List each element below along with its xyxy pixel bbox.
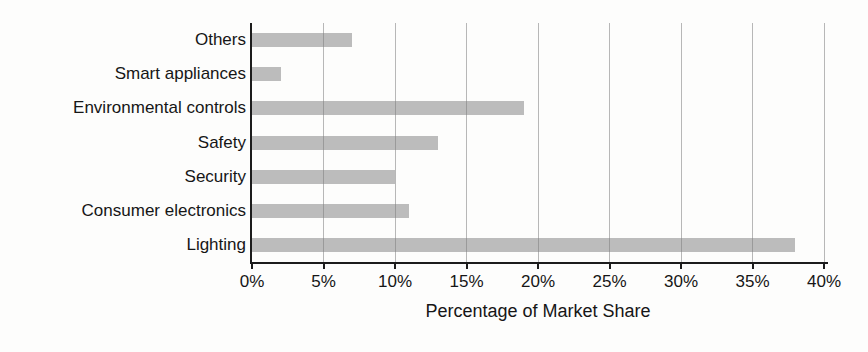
x-axis-title: Percentage of Market Share — [252, 301, 824, 322]
category-label-lighting: Lighting — [0, 235, 252, 255]
x-axis-tick — [537, 262, 539, 269]
x-axis-tick — [466, 262, 468, 269]
x-axis-tick — [394, 262, 396, 269]
gridline — [466, 23, 467, 262]
x-axis-tick-label: 15% — [449, 272, 483, 292]
x-axis-tick-label: 30% — [664, 272, 698, 292]
x-axis-tick-label: 25% — [592, 272, 626, 292]
x-axis-tick-label: 35% — [735, 272, 769, 292]
x-axis-line — [250, 262, 828, 264]
gridline — [538, 23, 539, 262]
category-label-smart-appliances: Smart appliances — [0, 64, 252, 84]
bar-environmental-controls — [252, 101, 524, 115]
gridline — [824, 23, 825, 262]
category-label-environmental-controls: Environmental controls — [0, 98, 252, 118]
gridline — [752, 23, 753, 262]
plot-area — [252, 23, 824, 262]
x-axis-tick-label: 40% — [807, 272, 841, 292]
x-axis-tick — [680, 262, 682, 269]
bar-lighting — [252, 238, 795, 252]
bar-consumer-electronics — [252, 204, 409, 218]
gridline — [323, 23, 324, 262]
x-axis-tick-label: 20% — [521, 272, 555, 292]
x-axis-tick-label: 0% — [240, 272, 265, 292]
bar-others — [252, 33, 352, 47]
x-axis-tick — [752, 262, 754, 269]
x-axis-tick — [609, 262, 611, 269]
gridline — [395, 23, 396, 262]
gridline — [681, 23, 682, 262]
x-axis-tick — [251, 262, 253, 269]
x-axis-tick — [323, 262, 325, 269]
y-axis-line — [250, 23, 252, 264]
gridline — [609, 23, 610, 262]
category-label-consumer-electronics: Consumer electronics — [0, 201, 252, 221]
bar-smart-appliances — [252, 67, 281, 81]
category-label-safety: Safety — [0, 133, 252, 153]
category-label-security: Security — [0, 167, 252, 187]
x-axis-tick-label: 5% — [311, 272, 336, 292]
market-share-bar-chart: Percentage of Market Share OthersSmart a… — [0, 0, 868, 352]
category-label-others: Others — [0, 30, 252, 50]
x-axis-tick — [823, 262, 825, 269]
x-axis-tick-label: 10% — [378, 272, 412, 292]
bar-safety — [252, 136, 438, 150]
